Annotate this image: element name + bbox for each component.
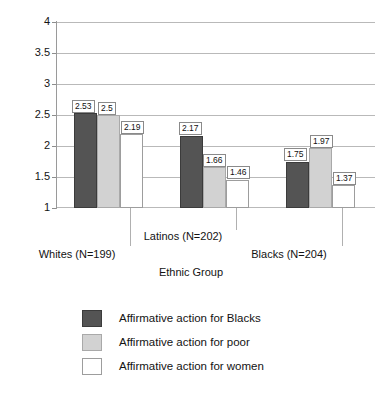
category-label-whites: Whites (N=199) <box>24 248 130 260</box>
bar-group-blacks: 1.75 1.97 1.37 <box>286 22 382 208</box>
value-label-whites-poor: 2.5 <box>98 102 116 115</box>
category-tick-3 <box>342 208 343 246</box>
bar-group-latinos: 2.17 1.66 1.46 <box>180 22 276 208</box>
value-label-latinos-poor: 1.66 <box>203 154 226 167</box>
legend-label-women: Affirmative action for women <box>119 359 264 373</box>
value-label-blacks-poor: 1.97 <box>310 135 333 148</box>
legend-swatch-poor <box>82 334 102 351</box>
bar-blacks-poor[interactable] <box>309 148 332 208</box>
y-tick-1: 1 <box>44 202 50 213</box>
y-tick-3: 3 <box>44 78 50 89</box>
bar-blacks-blacks[interactable] <box>286 162 309 209</box>
legend-label-poor: Affirmative action for poor <box>119 335 250 349</box>
y-tick-3-5: 3.5 <box>35 47 50 58</box>
bar-whites-blacks[interactable] <box>74 113 97 208</box>
bar-group-whites: 2.53 2.5 2.19 <box>74 22 170 208</box>
y-tick-1-5: 1.5 <box>35 171 50 182</box>
bar-blacks-women[interactable] <box>332 185 355 208</box>
y-axis-tick-labels: 4 3.5 3 2.5 2 1.5 1 <box>0 22 50 208</box>
bar-latinos-women[interactable] <box>226 180 249 209</box>
legend-swatch-women <box>82 358 102 375</box>
legend-label-blacks: Affirmative action for Blacks <box>119 311 261 325</box>
category-label-latinos: Latinos (N=202) <box>130 230 236 242</box>
value-label-whites-women: 2.19 <box>121 121 144 134</box>
y-tick-2-5: 2.5 <box>35 109 50 120</box>
y-tick-2: 2 <box>44 140 50 151</box>
value-label-whites-blacks: 2.53 <box>72 100 95 113</box>
category-tick-2 <box>236 208 237 230</box>
bar-whites-poor[interactable] <box>97 115 120 208</box>
bar-chart: Opposition to Affirmative Action 4 3.5 3… <box>0 0 382 401</box>
bar-latinos-poor[interactable] <box>203 167 226 208</box>
value-label-latinos-blacks: 2.17 <box>179 122 202 135</box>
legend-item-poor[interactable]: Affirmative action for poor <box>82 332 362 356</box>
bar-whites-women[interactable] <box>120 134 143 208</box>
value-label-latinos-women: 1.46 <box>227 166 250 179</box>
chart-legend: Affirmative action for Blacks Affirmativ… <box>82 308 362 380</box>
bar-latinos-blacks[interactable] <box>180 136 203 209</box>
legend-item-blacks[interactable]: Affirmative action for Blacks <box>82 308 362 332</box>
plot-area: 2.53 2.5 2.19 2.17 1.66 1.46 1.75 1.97 1… <box>57 22 375 208</box>
value-label-blacks-blacks: 1.75 <box>284 148 307 161</box>
category-label-blacks: Blacks (N=204) <box>236 248 342 260</box>
y-tick-4: 4 <box>44 16 50 27</box>
value-label-blacks-women: 1.37 <box>333 172 356 185</box>
legend-swatch-blacks <box>82 310 102 327</box>
x-axis-title: Ethnic Group <box>0 266 382 278</box>
legend-item-women[interactable]: Affirmative action for women <box>82 356 362 380</box>
